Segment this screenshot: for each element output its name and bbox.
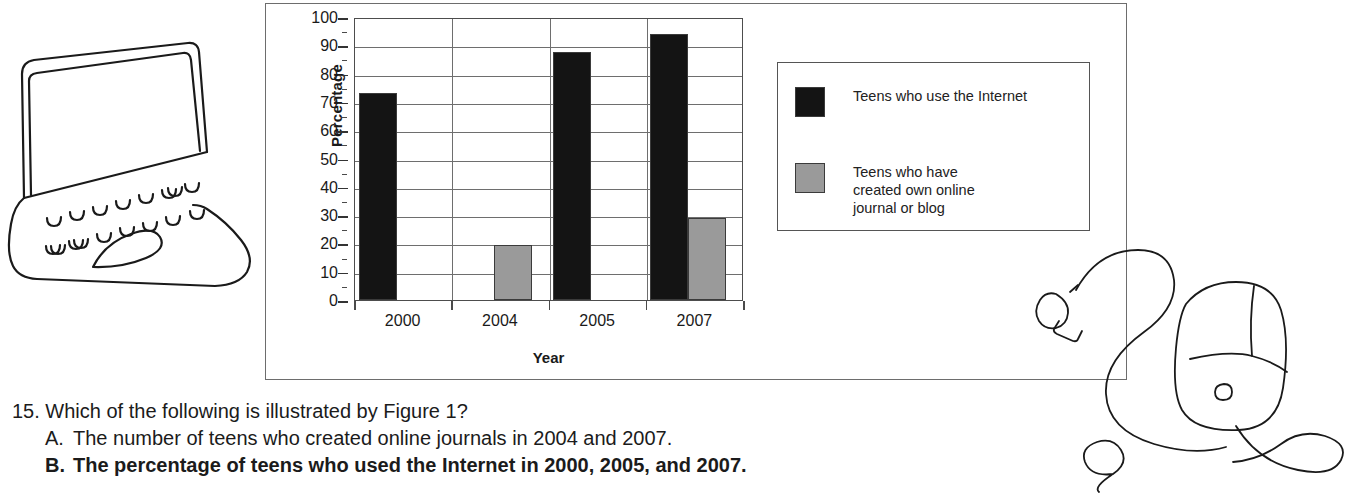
y-axis-ticks (342, 9, 349, 301)
x-axis-tick-label: 2005 (557, 312, 637, 330)
answer-choice-text: The percentage of teens who used the Int… (73, 452, 747, 479)
y-axis-tick-label: 70 (292, 95, 338, 111)
y-axis-tick-label: 100 (292, 10, 338, 26)
x-axis-tick (549, 301, 551, 310)
x-axis-title: Year (354, 349, 743, 366)
answer-choice-a[interactable]: A.The number of teens who created online… (45, 425, 1052, 452)
y-axis-major-tick (338, 273, 348, 275)
answer-choices: A.The number of teens who created online… (12, 425, 1052, 479)
x-axis-tick (646, 301, 648, 310)
y-axis-major-tick (338, 160, 348, 162)
y-axis-tick-label: 20 (292, 236, 338, 252)
y-axis-tick-label: 50 (292, 152, 338, 168)
y-axis-major-tick (338, 244, 348, 246)
y-axis-minor-tick (342, 259, 347, 260)
bar-2007-series-2 (688, 218, 726, 300)
y-axis-tick-label: 0 (292, 293, 338, 309)
x-axis-tick (354, 301, 356, 310)
chart-legend: Teens who use the InternetTeens who have… (777, 62, 1090, 231)
y-axis-minor-tick (342, 202, 347, 203)
x-axis-tick (451, 301, 453, 310)
y-axis-major-tick (338, 216, 348, 218)
x-axis-ticks (354, 301, 745, 311)
y-axis-minor-tick (342, 89, 347, 90)
y-axis-major-tick (338, 103, 348, 105)
vertical-gridline (452, 19, 453, 300)
bar-chart: Percentage 1009080706050403020100 200020… (278, 9, 758, 369)
bar-2000-series-1 (359, 93, 397, 300)
y-axis-tick-label: 80 (292, 67, 338, 83)
y-axis-major-tick (338, 46, 348, 48)
computer-mouse-illustration (1018, 228, 1353, 493)
plot-area (354, 18, 743, 301)
question-stem: 15. Which of the following is illustrate… (12, 398, 1052, 425)
y-axis-minor-tick (342, 230, 347, 231)
y-axis-minor-tick (342, 174, 347, 175)
x-axis-tick-label: 2007 (654, 312, 734, 330)
y-axis-tick-label: 10 (292, 265, 338, 281)
y-axis-tick-label: 30 (292, 208, 338, 224)
legend-label: Teens who use the Internet (853, 87, 1027, 105)
legend-item: Teens who havecreated own onlinejournal … (795, 163, 975, 217)
y-axis-tick-label: 90 (292, 38, 338, 54)
y-axis-tick-label: 40 (292, 180, 338, 196)
vertical-gridline (647, 19, 648, 300)
x-axis-tick-labels: 2000200420052007 (354, 312, 743, 334)
legend-swatch (795, 87, 825, 117)
y-axis-minor-tick (342, 32, 347, 33)
y-axis-major-tick (338, 131, 348, 133)
question-block: 15. Which of the following is illustrate… (12, 398, 1052, 479)
answer-choice-b[interactable]: B.The percentage of teens who used the I… (45, 452, 1052, 479)
y-axis-minor-tick (342, 60, 347, 61)
y-axis-major-tick (338, 75, 348, 77)
vertical-gridline (550, 19, 551, 300)
y-axis-major-tick (338, 18, 348, 20)
answer-choice-text: The number of teens who created online j… (73, 425, 672, 452)
y-axis-tick-label: 60 (292, 123, 338, 139)
answer-choice-letter: A. (45, 425, 73, 452)
bar-2005-series-1 (553, 52, 591, 300)
x-axis-tick (743, 301, 745, 310)
y-axis-minor-tick (342, 145, 347, 146)
y-axis-minor-tick (342, 117, 347, 118)
bar-2007-series-1 (650, 34, 688, 300)
x-axis-tick-label: 2004 (460, 312, 540, 330)
laptop-illustration (2, 40, 270, 336)
y-axis-minor-tick (342, 287, 347, 288)
y-axis-tick-labels: 1009080706050403020100 (292, 9, 338, 304)
y-axis-major-tick (338, 301, 348, 303)
answer-choice-letter: B. (45, 452, 73, 479)
legend-swatch (795, 163, 825, 193)
legend-item: Teens who use the Internet (795, 87, 1027, 117)
legend-label: Teens who havecreated own onlinejournal … (853, 163, 975, 217)
figure-1-panel: Percentage 1009080706050403020100 200020… (265, 3, 1127, 380)
y-axis-major-tick (338, 188, 348, 190)
x-axis-tick-label: 2000 (363, 312, 443, 330)
bar-2004-series-2 (494, 245, 532, 300)
